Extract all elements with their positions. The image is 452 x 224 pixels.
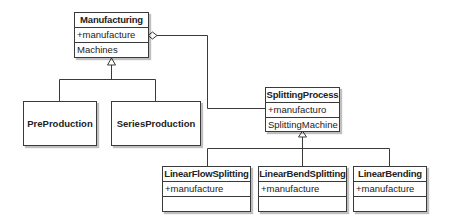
class-linearbendsplitting[interactable]: LinearBendSplitting +manufacture <box>258 166 347 212</box>
class-linearflowsplitting[interactable]: LinearFlowSplitting +manufacture <box>162 166 251 212</box>
class-name: PreProduction <box>27 118 92 129</box>
class-preproduction[interactable]: PreProduction <box>23 101 97 146</box>
class-operation: Machines <box>75 43 148 57</box>
class-manufacturing[interactable]: Manufacturing +manufacture Machines <box>74 12 149 58</box>
class-name: LinearBending <box>354 167 426 182</box>
class-attribute: +manufacture <box>354 182 426 197</box>
class-name: LinearFlowSplitting <box>163 167 250 182</box>
class-operation: SplittingMachine <box>266 118 339 132</box>
class-operation <box>354 197 426 211</box>
class-operation <box>163 197 250 211</box>
class-linearbending[interactable]: LinearBending +manufacture <box>353 166 427 212</box>
aggregation-diamond-icon <box>148 32 157 39</box>
class-name: SeriesProduction <box>117 118 196 129</box>
class-operation <box>259 197 346 211</box>
class-seriesproduction[interactable]: SeriesProduction <box>111 101 201 146</box>
generalization-arrow-icon <box>108 58 116 65</box>
class-name: SplittingProcess <box>266 88 339 103</box>
class-attribute: +manufacturo <box>266 103 339 118</box>
class-name: Manufacturing <box>75 13 148 28</box>
class-splittingprocess[interactable]: SplittingProcess +manufacturo SplittingM… <box>265 87 340 132</box>
class-attribute: +manufacture <box>163 182 250 197</box>
class-attribute: +manufacture <box>259 182 346 197</box>
class-name: LinearBendSplitting <box>259 167 346 182</box>
class-attribute: +manufacture <box>75 28 148 43</box>
